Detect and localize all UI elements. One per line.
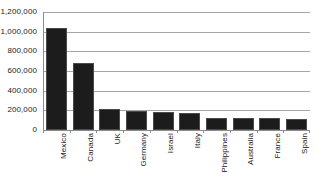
bars-layer	[43, 12, 310, 130]
category-label: Australia	[247, 133, 255, 165]
category-label-text: Philippines	[221, 133, 229, 173]
y-axis-tick-label: 800,000	[7, 47, 37, 55]
y-axis-tick-labels: 0200,000400,000600,000800,0001,000,0001,…	[0, 0, 40, 187]
bar-chart: 0200,000400,000600,000800,0001,000,0001,…	[0, 0, 317, 187]
category-label-text: UK	[114, 133, 122, 144]
y-axis-tick-label: 400,000	[7, 87, 37, 95]
category-label-text: Israel	[167, 133, 175, 153]
category-label-text: Canada	[87, 133, 95, 162]
category-label: Israel	[167, 133, 175, 153]
bar	[99, 109, 120, 130]
y-axis-tick-label: 600,000	[7, 67, 37, 75]
category-label-text: Spain	[301, 133, 309, 154]
bar	[233, 118, 254, 130]
category-label: France	[274, 133, 282, 159]
category-label-text: Italy	[194, 133, 202, 148]
category-label: Spain	[301, 133, 309, 154]
bar	[286, 119, 307, 130]
category-label: Mexico	[60, 133, 68, 159]
category-axis-labels: MexicoCanadaUKGermanyIsraelItalyPhilippi…	[43, 133, 310, 187]
category-label-text: France	[274, 133, 282, 159]
category-label-text: Australia	[247, 133, 255, 165]
category-label: Canada	[87, 133, 95, 162]
bar	[179, 113, 200, 130]
bar	[259, 118, 280, 130]
bar	[73, 63, 94, 130]
bar	[206, 118, 227, 130]
bar	[153, 112, 174, 130]
bar	[46, 28, 67, 130]
category-label: Philippines	[221, 133, 229, 173]
category-label: Italy	[194, 133, 202, 148]
bar	[126, 111, 147, 130]
y-axis-tick-label: 200,000	[7, 106, 37, 114]
y-axis-tick-label: 1,200,000	[1, 8, 38, 16]
y-axis-tick-label: 0	[32, 126, 37, 134]
y-axis-tick-label: 1,000,000	[1, 28, 38, 36]
category-label-text: Mexico	[60, 133, 68, 159]
category-label-text: Germany	[140, 133, 148, 167]
category-label: Germany	[140, 133, 148, 167]
category-label: UK	[114, 133, 122, 144]
